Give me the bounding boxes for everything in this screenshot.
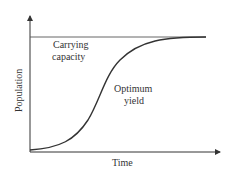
optimum-yield-label-1: Optimum — [114, 83, 153, 94]
x-axis-label: Time — [112, 157, 133, 168]
y-axis-label: Population — [13, 69, 24, 112]
optimum-yield-label-2: yield — [124, 95, 144, 106]
carrying-capacity-label-1: Carrying — [53, 39, 89, 50]
carrying-capacity-label-2: capacity — [52, 51, 85, 62]
logistic-growth-diagram: Carrying capacity Optimum yield Time Pop… — [0, 0, 229, 175]
